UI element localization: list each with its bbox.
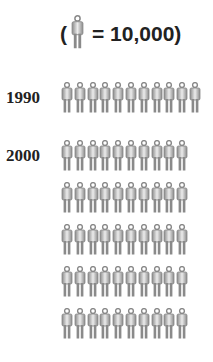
person-icon [87,308,100,339]
person-icon [99,224,112,255]
person-icon [125,266,138,297]
person-icon [163,308,176,339]
person-icon [74,82,87,113]
person-icon [112,308,125,339]
person-icon [112,266,125,297]
person-icon [125,140,138,171]
person-icon [151,140,164,171]
person-icon [163,82,176,113]
person-icon [176,140,189,171]
person-icon [61,266,74,297]
icon-row [61,182,189,213]
person-icon [87,82,100,113]
person-icon [71,13,84,56]
person-icon [176,308,189,339]
person-icon [99,182,112,213]
legend-value: = 10,000) [92,22,181,46]
person-icon [125,224,138,255]
person-icon [99,266,112,297]
person-icon [99,82,112,113]
person-icon [151,182,164,213]
year-label: 1990 [6,88,54,108]
person-icon [138,266,151,297]
person-icon [87,266,100,297]
person-icon [61,82,74,113]
person-icon [151,308,164,339]
person-icon [138,224,151,255]
person-icon [74,224,87,255]
person-icon [138,82,151,113]
person-icon [61,308,74,339]
person-icon [138,182,151,213]
person-icon [61,182,74,213]
person-icon [112,82,125,113]
icon-row [61,266,189,297]
person-icon [99,308,112,339]
person-icon [151,224,164,255]
year-label: 2000 [6,146,54,166]
legend: ( = 10,000) [60,14,181,54]
person-icon [138,308,151,339]
person-icon [151,266,164,297]
person-icon [176,224,189,255]
person-icon [151,82,164,113]
person-icon [176,266,189,297]
icon-row [61,82,202,113]
person-icon [163,182,176,213]
icon-row [61,224,189,255]
person-icon [112,182,125,213]
person-icon [74,140,87,171]
person-icon [87,224,100,255]
person-icon [125,82,138,113]
legend-open-paren: ( [60,22,67,46]
person-icon [163,140,176,171]
person-icon [74,308,87,339]
person-icon [74,182,87,213]
person-icon [74,266,87,297]
person-icon [163,224,176,255]
person-icon [163,266,176,297]
person-icon [99,140,112,171]
person-icon [176,82,189,113]
person-icon [176,182,189,213]
person-icon [112,224,125,255]
person-icon [61,140,74,171]
person-icon [61,224,74,255]
icon-row [61,308,189,339]
person-icon [125,182,138,213]
person-icon [189,82,202,113]
icon-row [61,140,189,171]
person-icon [112,140,125,171]
person-icon [87,182,100,213]
person-icon [138,140,151,171]
person-icon [87,140,100,171]
person-icon [125,308,138,339]
